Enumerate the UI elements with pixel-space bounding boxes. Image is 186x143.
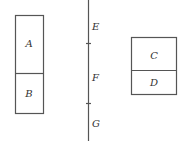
label-f: F — [91, 72, 100, 83]
left-box: A B — [16, 16, 44, 114]
vertical-axis: E F G — [86, 0, 100, 141]
label-g: G — [92, 118, 100, 129]
label-c: C — [150, 50, 158, 61]
diagram-canvas: A B E F G C D — [0, 0, 186, 143]
label-d: D — [149, 77, 158, 88]
right-box: C D — [132, 38, 177, 95]
label-e: E — [91, 21, 100, 32]
label-a: A — [24, 38, 32, 49]
label-b: B — [24, 88, 32, 99]
